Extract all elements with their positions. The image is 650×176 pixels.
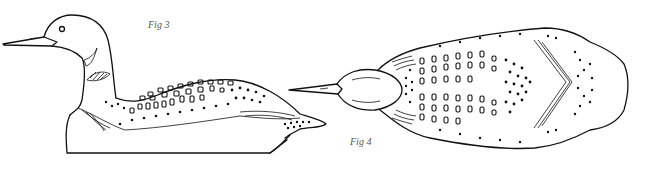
loon-top-view <box>289 28 628 149</box>
illustration-canvas: Fig 3 Fig 4 <box>0 0 650 176</box>
loon-side-view <box>3 15 326 153</box>
side-spots <box>105 80 310 129</box>
figure-3-caption: Fig 3 <box>148 19 169 30</box>
top-spots <box>405 33 593 143</box>
loon-drawings <box>0 0 650 176</box>
figure-4-caption: Fig 4 <box>350 136 371 147</box>
